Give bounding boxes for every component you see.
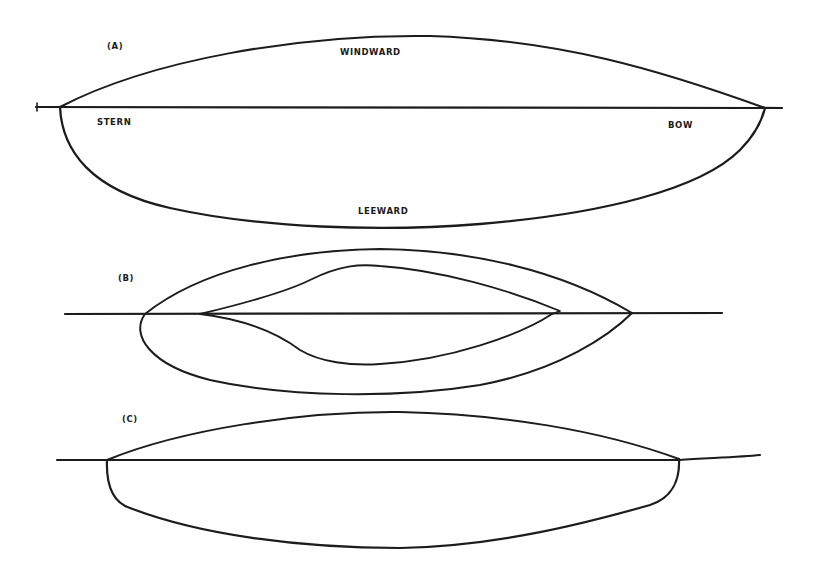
figure-c-top-curve bbox=[107, 412, 679, 460]
figure-b-inner-bottom-curve bbox=[200, 314, 552, 364]
windward-label: WINDWARD bbox=[340, 47, 401, 57]
figure-c-bottom-curve bbox=[107, 459, 679, 548]
figure-a-windward-curve bbox=[60, 36, 765, 108]
leeward-label: LEEWARD bbox=[358, 206, 408, 216]
figure-b-inner-top-curve bbox=[200, 265, 560, 314]
figure-b-centerline bbox=[65, 313, 722, 314]
figure-a-label: (A) bbox=[107, 41, 123, 51]
figure-a-centerline bbox=[36, 107, 782, 108]
figure-c-centerline bbox=[57, 455, 760, 460]
figure-b-label: (B) bbox=[118, 273, 134, 283]
figure-a-leeward-curve bbox=[60, 107, 765, 228]
figure-a bbox=[36, 36, 782, 228]
stern-label: STERN bbox=[97, 117, 131, 127]
figure-c bbox=[57, 412, 760, 548]
bow-label: BOW bbox=[668, 120, 693, 130]
figure-b-outer-top-curve bbox=[145, 249, 632, 314]
sail-pressure-diagram bbox=[0, 0, 814, 582]
figure-b-outer-bottom-curve bbox=[140, 313, 632, 394]
figure-c-label: (C) bbox=[122, 414, 138, 424]
figure-b bbox=[65, 249, 722, 394]
